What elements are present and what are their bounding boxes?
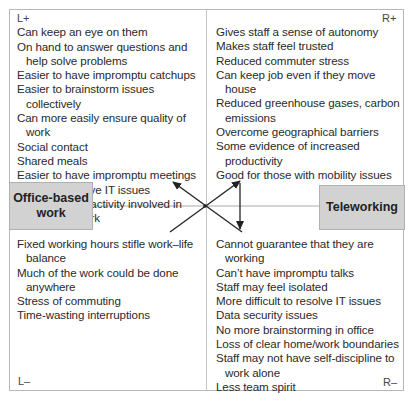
list-item: Gives staff a sense of autonomy [216,25,404,39]
list-item: Fixed working hours stifle work–life bal… [17,237,205,266]
quadrant-right-plus: Gives staff a sense of autonomy Makes st… [216,25,404,182]
list-item: Can more easily ensure quality of work [17,111,205,140]
teleworking-box: Teleworking [319,185,405,230]
list-item: Much of the work could be done anywhere [17,266,205,295]
list-item: Stress of commuting [17,294,205,308]
list-item: Makes staff feel trusted [216,39,404,53]
list-item: Can’t have impromptu talks [216,266,404,280]
quadrant-left-minus: Fixed working hours stifle work–life bal… [17,237,205,323]
list-item: Good for those with mobility issues [216,168,404,182]
list-item: On hand to answer questions and help sol… [17,40,205,69]
list-item: Easier to have impromptu meetings [17,168,205,182]
list-item: No more brainstorming in office [216,323,404,337]
list-item: More difficult to resolve IT issues [216,294,404,308]
list-item: Reduced commuter stress [216,54,404,68]
corner-label-left-minus: L– [18,375,30,387]
list-item: Easier to brainstorm issues collectively [17,82,205,111]
list-item: Overcome geographical barriers [216,125,404,139]
office-based-work-box: Office-based work [9,182,93,230]
list-item: Cannot guarantee that they are working [216,237,404,266]
list-item: Can keep an eye on them [17,25,205,39]
list-item: Less team spirit [216,380,404,394]
list-item: Loss of clear home/work boundaries [216,337,404,351]
list-item: Staff may feel isolated [216,280,404,294]
corner-label-right-minus: R– [383,376,397,388]
list-item: Staff may not have self-discipline to wo… [216,351,404,380]
list-item: Can keep job even if they move house [216,68,404,97]
list-item: Reduced greenhouse gases, carbon emissio… [216,96,404,125]
list-item: Data security issues [216,308,404,322]
corner-label-right-plus: R+ [382,12,396,24]
list-item: Social contact [17,140,205,154]
list-item: Some evidence of increased productivity [216,139,404,168]
quadrant-right-minus: Cannot guarantee that they are working C… [216,237,404,394]
list-item: Shared meals [17,154,205,168]
corner-label-left-plus: L+ [17,11,205,25]
list-item: Easier to have impromptu catchups [17,68,205,82]
list-item: Time-wasting interruptions [17,308,205,322]
